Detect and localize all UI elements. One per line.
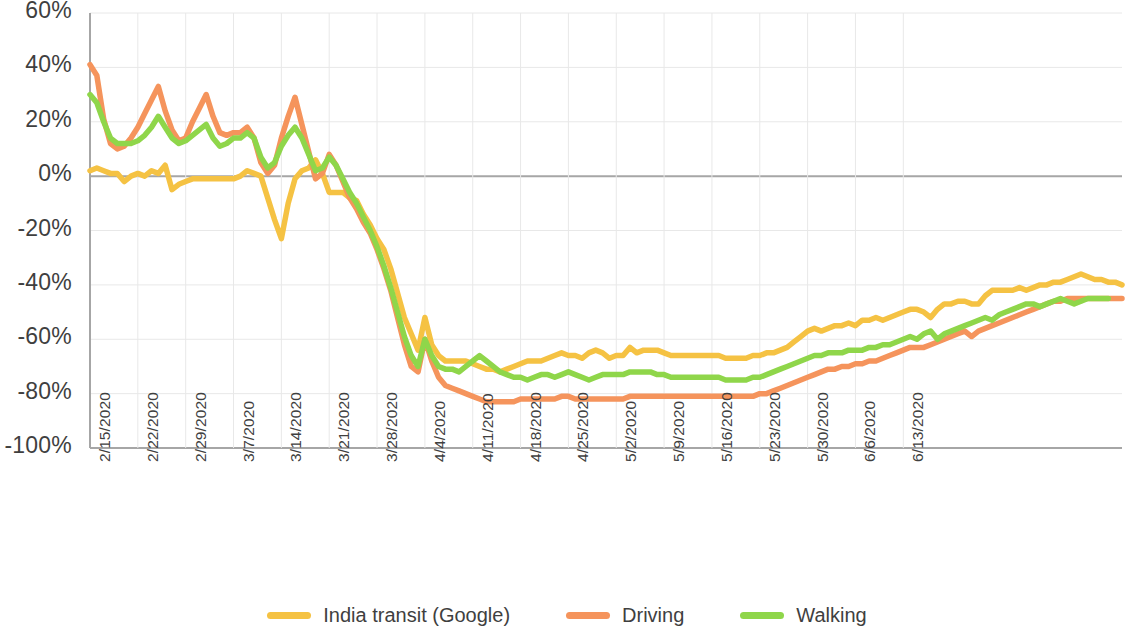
series-line-1 [90, 65, 1122, 402]
y-axis-tick-label: 60% [25, 0, 72, 24]
plot-area [0, 0, 1134, 634]
y-axis-tick-label: 0% [38, 160, 72, 187]
x-axis-tick-label: 5/2/2020 [622, 401, 640, 462]
x-axis-tick-label: 6/13/2020 [909, 392, 927, 462]
y-axis-tick-label: 40% [25, 51, 72, 78]
x-axis-tick-label: 5/16/2020 [718, 392, 736, 462]
y-axis-tick-label: -60% [18, 323, 73, 350]
series-line-0 [90, 160, 1122, 372]
x-axis-tick-label: 4/25/2020 [574, 392, 592, 462]
y-axis-tick-label: -20% [18, 215, 73, 242]
x-axis-tick-label: 3/7/2020 [240, 401, 258, 462]
x-axis-tick-label: 5/30/2020 [814, 392, 832, 462]
chart-legend: India transit (Google)DrivingWalking [0, 596, 1134, 634]
legend-color-swatch [566, 612, 610, 619]
legend-label: Walking [796, 604, 866, 627]
legend-item[interactable]: India transit (Google) [267, 604, 510, 627]
x-axis-tick-label: 2/22/2020 [144, 392, 162, 462]
y-axis-tick-label: -80% [18, 378, 73, 405]
x-axis-tick-label: 6/6/2020 [861, 401, 879, 462]
legend-color-swatch [267, 612, 311, 619]
legend-color-swatch [740, 612, 784, 619]
y-axis-tick-label: 20% [25, 106, 72, 133]
x-axis-tick-label: 3/14/2020 [287, 392, 305, 462]
legend-item[interactable]: Walking [740, 604, 866, 627]
x-axis-tick-label: 3/21/2020 [335, 392, 353, 462]
x-axis-tick-label: 3/28/2020 [383, 392, 401, 462]
y-axis-tick-label: -40% [18, 269, 73, 296]
y-axis-tick-label: -100% [5, 432, 72, 459]
x-axis-tick-label: 5/23/2020 [766, 392, 784, 462]
legend-item[interactable]: Driving [566, 604, 684, 627]
x-axis-tick-label: 5/9/2020 [670, 401, 688, 462]
x-axis-tick-label: 4/4/2020 [431, 401, 449, 462]
mobility-trends-line-chart: 60%40%20%0%-20%-40%-60%-80%-100% 2/15/20… [0, 0, 1134, 634]
x-axis-tick-label: 2/15/2020 [96, 392, 114, 462]
legend-label: Driving [622, 604, 684, 627]
x-axis-tick-label: 2/29/2020 [192, 392, 210, 462]
x-axis-tick-label: 4/18/2020 [527, 392, 545, 462]
x-axis-tick-label: 4/11/2020 [479, 393, 497, 462]
legend-label: India transit (Google) [323, 604, 510, 627]
